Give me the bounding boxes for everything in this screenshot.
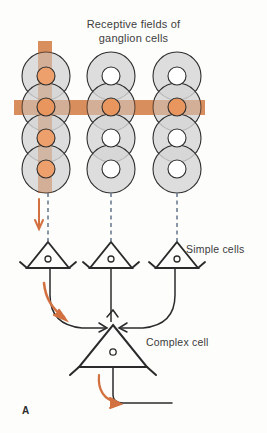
soma-triangle [27,242,69,268]
figure-title-line-2: ganglion cells [0,32,267,46]
simple-cells-layer [20,242,205,268]
dashed-projections-layer [48,193,177,241]
field-center-on [37,98,55,116]
field-center-off [168,160,186,178]
flow-arrows-layer [35,199,121,408]
complex-cell-label: Complex cell [146,336,209,349]
figure-panel: Receptive fields of ganglion cells Simpl… [0,0,267,433]
simple-cell-left [20,242,76,268]
simple-cells-label: Simple cells [186,243,244,256]
field-center-on [37,129,55,147]
field-center-off [102,129,120,147]
complex-cell-axon [113,367,172,403]
apical-dendrite-tip [107,310,118,317]
soma-triangle [79,325,147,367]
nucleus [110,349,116,355]
diagram-canvas [0,0,267,433]
field-center-on [102,98,120,116]
figure-title: Receptive fields of ganglion cells [0,18,267,46]
simple-cell-middle [83,242,139,268]
axon-convergence-layer [50,268,175,328]
panel-letter-label: A [22,405,29,418]
field-center-on [37,160,55,178]
field-center-on [168,98,186,116]
nucleus [174,256,180,262]
field-center-off [102,67,120,85]
input-flow-arrow [35,199,43,229]
field-center-off [102,160,120,178]
figure-title-line-1: Receptive fields of [0,18,267,32]
nucleus [45,256,51,262]
output-flow-arrow [99,375,121,408]
soma-triangle [90,242,132,268]
field-center-on [37,67,55,85]
axon-left [50,268,105,328]
axon-right [121,268,175,328]
field-center-off [168,67,186,85]
nucleus [108,256,114,262]
lateral-flow-arrow [44,283,66,320]
field-center-off [168,129,186,147]
